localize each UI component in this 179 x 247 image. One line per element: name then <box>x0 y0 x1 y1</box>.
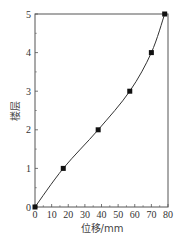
x-tick-label: 10 <box>47 209 57 220</box>
x-axis-title: 位移/mm <box>81 222 124 234</box>
x-axis-ticks: 01020304050607080 <box>33 204 174 220</box>
plot-border <box>35 14 168 207</box>
y-tick-label: 3 <box>26 86 31 97</box>
square-marker <box>96 127 101 132</box>
x-tick-label: 80 <box>163 209 173 220</box>
x-tick-label: 70 <box>146 209 156 220</box>
x-tick-label: 30 <box>80 209 90 220</box>
y-tick-label: 2 <box>26 124 31 135</box>
x-tick-label: 60 <box>130 209 140 220</box>
square-marker <box>127 89 132 94</box>
data-series <box>33 12 168 210</box>
square-marker <box>61 166 66 171</box>
floor-displacement-chart: 01020304050607080 012345 位移/mm 楼层 <box>0 0 179 247</box>
series-line <box>35 14 165 207</box>
y-tick-label: 4 <box>26 47 31 58</box>
x-tick-label: 0 <box>33 209 38 220</box>
y-tick-label: 1 <box>26 163 31 174</box>
x-tick-label: 20 <box>63 209 73 220</box>
square-marker <box>162 12 167 17</box>
plot-frame <box>35 14 168 207</box>
square-marker <box>33 205 38 210</box>
x-tick-label: 40 <box>97 209 107 220</box>
y-axis-ticks: 012345 <box>26 9 38 213</box>
y-axis-title: 楼层 <box>9 101 21 121</box>
x-tick-label: 50 <box>113 209 123 220</box>
square-marker <box>149 50 154 55</box>
y-tick-label: 5 <box>26 9 31 20</box>
y-tick-label: 0 <box>26 202 31 213</box>
